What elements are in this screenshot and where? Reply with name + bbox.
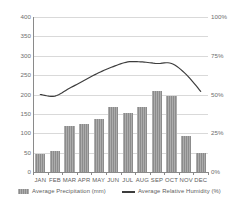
y-tick-right-50pct: 50% [211,92,239,98]
x-tick [193,172,194,175]
bar-slot [150,17,165,172]
y-tick-left-100: 100 [3,130,31,136]
x-axis-labels: JANFEBMARAPRMAYJUNJULAUGSEPOCTNOVDEC [33,176,208,186]
bar-apr [79,124,89,172]
bar-slot [135,17,150,172]
bar-slot [77,17,92,172]
y-tick-right-25pct: 25% [211,130,239,136]
x-label-jun: JUN [106,176,121,184]
x-tick [48,172,49,175]
y-tick-left-200: 200 [3,92,31,98]
y-tick-left-0: 0 [3,169,31,175]
x-tick [62,172,63,175]
bar-slot [48,17,63,172]
x-label-nov: NOV [179,176,194,184]
x-tick [121,172,122,175]
x-label-jan: JAN [33,176,48,184]
x-tick [106,172,107,175]
bar-feb [50,151,60,172]
bar-slot [121,17,136,172]
legend-label-precipitation: Average Precipitation (mm) [32,188,106,195]
precipitation-bars [33,17,208,172]
x-label-sep: SEP [150,176,165,184]
x-label-apr: APR [77,176,92,184]
x-tick [77,172,78,175]
y-axis-left-labels: 050100150200250300350400 [0,0,31,203]
x-tick [91,172,92,175]
y-tick-left-350: 350 [3,33,31,39]
bar-dec [196,153,206,172]
y-tick-left-400: 400 [3,14,31,20]
x-axis-ticks [33,172,209,175]
bar-slot [179,17,194,172]
y-tick-left-150: 150 [3,111,31,117]
bar-sep [152,91,162,172]
bar-nov [181,136,191,172]
bar-slot [91,17,106,172]
line-swatch-icon [122,191,135,193]
x-label-dec: DEC [193,176,208,184]
bar-slot [106,17,121,172]
x-label-feb: FEB [48,176,63,184]
bar-slot [164,17,179,172]
bar-jul [123,113,133,172]
bar-may [94,119,104,172]
bar-swatch-icon [18,189,29,194]
x-tick [150,172,151,175]
legend-item-precipitation: Average Precipitation (mm) [18,188,106,195]
x-label-jul: JUL [121,176,136,184]
y-tick-left-250: 250 [3,72,31,78]
bar-slot [62,17,77,172]
x-tick [135,172,136,175]
bar-slot [193,17,208,172]
x-label-mar: MAR [62,176,77,184]
x-tick [33,172,34,175]
x-label-may: MAY [91,176,106,184]
y-tick-left-300: 300 [3,53,31,59]
bar-slot [33,17,48,172]
x-tick [179,172,180,175]
bar-mar [64,126,74,172]
y-axis-right-labels: 0%25%50%75%100% [211,0,239,203]
legend-label-humidity: Average Relative Humidity (%) [138,188,221,195]
bar-jun [108,107,118,172]
climate-chart: 050100150200250300350400 0%25%50%75%100%… [0,0,239,203]
y-axis-right-line [208,17,209,173]
chart-legend: Average Precipitation (mm) Average Relat… [0,188,239,195]
legend-item-humidity: Average Relative Humidity (%) [122,188,221,195]
x-label-aug: AUG [135,176,150,184]
x-tick [164,172,165,175]
bar-oct [166,96,176,172]
y-tick-left-50: 50 [3,150,31,156]
x-tick [208,172,209,175]
y-tick-right-75pct: 75% [211,53,239,59]
y-tick-right-100pct: 100% [211,14,239,20]
x-label-oct: OCT [164,176,179,184]
y-tick-right-0pct: 0% [211,169,239,175]
bar-aug [137,107,147,172]
bar-jan [35,154,45,172]
